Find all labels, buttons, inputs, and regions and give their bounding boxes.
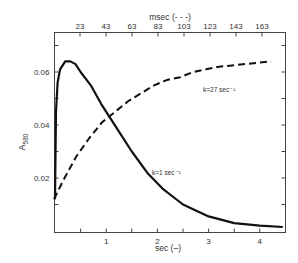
tick-label: 0.06 <box>34 68 50 77</box>
axis-tick-labels: 1234234363831031231431630.020.040.06 <box>34 22 269 246</box>
tick-label: 0.02 <box>34 174 50 183</box>
tick-label: 63 <box>128 22 137 31</box>
top-axis-title: msec (- - -) <box>149 12 191 22</box>
svg-text:A580: A580 <box>17 133 29 150</box>
tick-label: 143 <box>229 22 243 31</box>
tick-label: 0.04 <box>34 121 50 130</box>
tick-label: 123 <box>203 22 217 31</box>
tick-label: 23 <box>76 22 85 31</box>
tick-label: 43 <box>102 22 111 31</box>
kinetics-chart: 1234234363831031231431630.020.040.06 mse… <box>0 0 298 263</box>
series-k1-solid-line <box>55 61 283 227</box>
y-axis-title: A580 <box>17 133 29 150</box>
tick-label: 4 <box>258 237 263 246</box>
tick-label: 83 <box>154 22 163 31</box>
annotation-k1: k=1 sec⁻¹ <box>152 169 182 176</box>
tick-label: 3 <box>206 237 211 246</box>
annotation-k27: k=27 sec⁻¹ <box>203 86 236 93</box>
bottom-axis-title: sec (–) <box>155 243 181 253</box>
tick-label: 163 <box>255 22 269 31</box>
series-k27-dashed-line <box>54 61 271 199</box>
tick-label: 103 <box>177 22 191 31</box>
tick-label: 1 <box>104 237 109 246</box>
